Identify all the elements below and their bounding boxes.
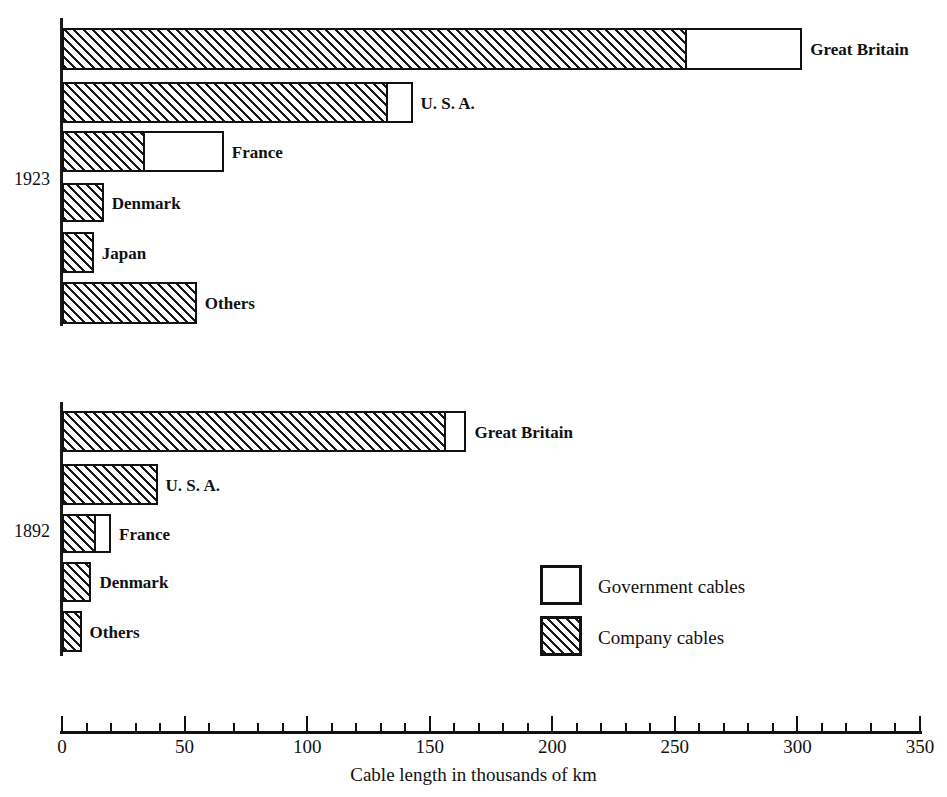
x-axis-major-tick [429, 716, 431, 731]
bar-segment-company-cables [64, 613, 80, 650]
x-axis-tick-label: 50 [175, 736, 194, 758]
bar-segment-company-cables [64, 30, 687, 68]
bar-segment-company-cables [64, 516, 96, 551]
x-axis-minor-tick [747, 723, 749, 731]
cable-length-bar-chart: 1923 1892 Great BritainU. S. A.FranceDen… [0, 0, 947, 797]
x-axis-title: Cable length in thousands of km [0, 764, 947, 786]
x-axis-minor-tick [821, 723, 823, 731]
x-axis-minor-tick [86, 723, 88, 731]
group-year-label-1892: 1892 [14, 521, 50, 542]
x-axis-minor-tick [453, 723, 455, 731]
x-axis-minor-tick [282, 723, 284, 731]
bar-1923-japan [62, 232, 94, 273]
bar-label-1892-u-s-a: U. S. A. [166, 477, 220, 494]
x-axis-major-tick [674, 716, 676, 731]
x-axis-major-tick [306, 716, 308, 731]
bar-label-1923-others: Others [205, 295, 255, 312]
bar-label-1923-u-s-a: U. S. A. [421, 95, 475, 112]
legend-label-company-cables: Company cables [598, 627, 724, 649]
bar-segment-company-cables [64, 413, 446, 450]
x-axis-major-tick [184, 716, 186, 731]
bar-segment-company-cables [64, 185, 102, 220]
legend-label-government-cables: Government cables [598, 576, 745, 598]
x-axis-minor-tick [404, 723, 406, 731]
bar-segment-company-cables [64, 133, 145, 170]
x-axis-minor-tick [894, 723, 896, 731]
x-axis-tick-label: 150 [415, 736, 444, 758]
x-axis-tick-label: 250 [661, 736, 690, 758]
x-axis-minor-tick [208, 723, 210, 731]
x-axis-major-tick [61, 716, 63, 731]
bar-label-1923-denmark: Denmark [112, 195, 181, 212]
x-axis-minor-tick [870, 723, 872, 731]
x-axis-minor-tick [625, 723, 627, 731]
bar-label-1923-france: France [232, 144, 283, 161]
bar-1892-denmark [62, 562, 91, 602]
bar-1923-denmark [62, 183, 104, 222]
bar-segment-company-cables [64, 284, 195, 322]
bar-label-1923-great-britain: Great Britain [810, 41, 908, 58]
x-axis-minor-tick [110, 723, 112, 731]
bar-segment-company-cables [64, 84, 388, 121]
bar-1892-france [62, 514, 111, 553]
x-axis-minor-tick [331, 723, 333, 731]
bar-1923-u-s-a [62, 82, 413, 123]
x-axis-minor-tick [845, 723, 847, 731]
x-axis-tick-label: 200 [538, 736, 567, 758]
bar-1892-great-britain [62, 411, 466, 452]
x-axis-minor-tick [649, 723, 651, 731]
bar-label-1892-france: France [119, 526, 170, 543]
bar-1892-u-s-a [62, 464, 158, 505]
bar-segment-company-cables [64, 466, 156, 503]
bar-label-1892-others: Others [90, 624, 140, 641]
bar-label-1923-japan: Japan [102, 245, 146, 262]
x-axis-minor-tick [502, 723, 504, 731]
bar-1923-france [62, 131, 224, 172]
x-axis-minor-tick [355, 723, 357, 731]
x-axis-minor-tick [135, 723, 137, 731]
legend-swatch-company-cables [540, 616, 582, 656]
x-axis-minor-tick [600, 723, 602, 731]
x-axis-minor-tick [576, 723, 578, 731]
x-axis-minor-tick [159, 723, 161, 731]
x-axis-major-tick [919, 716, 921, 731]
bar-segment-company-cables [64, 564, 89, 600]
bar-label-1892-denmark: Denmark [99, 574, 168, 591]
x-axis-tick-label: 300 [783, 736, 812, 758]
x-axis-line [60, 731, 922, 734]
group-year-label-1923: 1923 [14, 169, 50, 190]
x-axis-minor-tick [527, 723, 529, 731]
bar-1923-great-britain [62, 28, 802, 70]
bar-segment-company-cables [64, 234, 92, 271]
x-axis-major-tick [551, 716, 553, 731]
x-axis-minor-tick [380, 723, 382, 731]
x-axis-tick-label: 100 [293, 736, 322, 758]
bar-1923-others [62, 282, 197, 324]
x-axis-minor-tick [257, 723, 259, 731]
x-axis-tick-label: 0 [57, 736, 67, 758]
legend-swatch-government-cables [540, 565, 582, 605]
x-axis-tick-label: 350 [906, 736, 935, 758]
x-axis-minor-tick [478, 723, 480, 731]
bar-label-1892-great-britain: Great Britain [474, 424, 572, 441]
x-axis-minor-tick [772, 723, 774, 731]
x-axis-major-tick [796, 716, 798, 731]
x-axis-minor-tick [233, 723, 235, 731]
x-axis-minor-tick [698, 723, 700, 731]
bar-1892-others [62, 611, 82, 652]
x-axis-minor-tick [723, 723, 725, 731]
